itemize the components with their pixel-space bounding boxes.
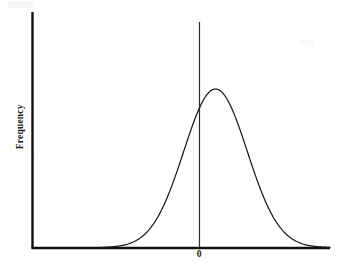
y-axis-label: Frequency: [16, 82, 26, 172]
normal-distribution-plot: [0, 0, 343, 272]
figure-canvas: Frequency 0: [0, 0, 343, 272]
distribution-curve: [101, 89, 330, 247]
x-axis-zero-tick-label: 0: [190, 250, 208, 260]
